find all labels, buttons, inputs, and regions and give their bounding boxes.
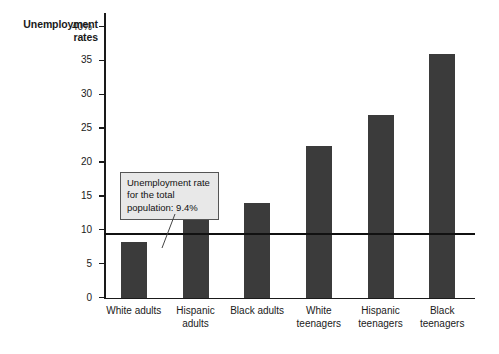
y-axis-tick-label: 40% <box>48 22 92 32</box>
y-axis-tick-label: 30 <box>48 89 92 99</box>
y-axis-tick-label: 20 <box>48 157 92 167</box>
y-axis-tick-label: 0 <box>48 293 92 303</box>
y-axis-tick-label: 10 <box>48 225 92 235</box>
x-axis-category-label: Black teenagers <box>405 305 479 330</box>
y-axis-tick-label: 15 <box>48 191 92 201</box>
y-axis-tick-label: 5 <box>48 259 92 269</box>
bar <box>429 54 455 298</box>
bar <box>306 146 332 298</box>
bar <box>121 242 147 298</box>
y-axis-tick-label: 35 <box>48 55 92 65</box>
bar <box>244 203 270 298</box>
y-axis-tick-label: 25 <box>48 123 92 133</box>
total-population-reference-line <box>104 233 475 235</box>
unemployment-rates-bar-chart: Unemployment rates 40%35302520151050 Une… <box>0 0 499 354</box>
bar <box>368 115 394 298</box>
plot-area <box>105 13 475 298</box>
reference-line-annotation: Unemployment rate for the total populati… <box>120 172 219 220</box>
